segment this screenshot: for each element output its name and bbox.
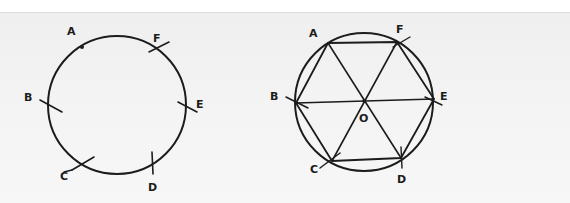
label-e: E — [196, 98, 204, 111]
label-o: O — [359, 112, 368, 125]
label-a-right: A — [309, 27, 318, 40]
label-d: D — [148, 181, 157, 194]
arc-mark-e — [178, 102, 197, 112]
right-figure-inscribed-hexagon: A F B E O C D — [270, 23, 448, 186]
label-f: F — [153, 32, 161, 45]
label-b-right: B — [270, 90, 278, 103]
point-a-dot — [80, 45, 84, 49]
label-c: C — [60, 170, 68, 183]
arc-mark-d — [152, 152, 153, 174]
label-e-right: E — [440, 90, 448, 103]
label-a: A — [67, 25, 76, 38]
arc-mark-b — [40, 100, 62, 112]
figure-page: A F B E C D A F B E O C D — [0, 0, 570, 203]
label-f-right: F — [396, 23, 404, 36]
arc-mark-d-right — [401, 147, 402, 168]
hexagon-construction-diagram: A F B E C D A F B E O C D — [0, 0, 570, 203]
label-c-right: C — [310, 163, 318, 176]
left-circle — [48, 36, 186, 174]
label-d-right: D — [397, 173, 406, 186]
left-figure-step-off-points: A F B E C D — [24, 25, 204, 194]
label-b: B — [24, 91, 32, 104]
center-o-dot — [362, 99, 366, 103]
